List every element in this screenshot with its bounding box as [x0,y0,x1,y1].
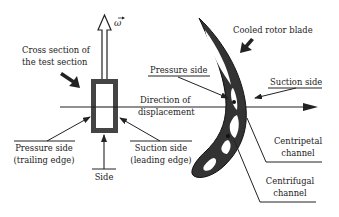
side-arrow [92,135,116,169]
pressure-side-blade-label: Pressure side [150,65,208,76]
centripetal-channel-label-line2: channel [268,148,328,159]
pressure-side-te-label-line2: (trailing edge) [12,155,76,166]
cooled-rotor-blade-label: Cooled rotor blade [233,25,313,36]
suction-side-le-label-line1: Suction side [128,143,194,154]
omega-label: ω [114,18,121,29]
suction-side-blade-leader [255,88,322,98]
direction-label-line1: Direction of [140,95,190,106]
centrifugal-channel-label-line1: Centrifugal [260,176,320,187]
direction-label-line2: displacement [138,107,195,118]
cross-section-pointer-icon [60,72,80,88]
turbine-blade-diagram: ω Cross section of the test section Pres… [0,0,339,217]
centripetal-channel-label-line1: Centripetal [268,136,328,147]
suction-side-le-leader [120,118,192,141]
suction-side-le-label-line2: (leading edge) [128,155,194,166]
cross-section-label-line2: the test section [22,57,87,68]
cross-section-label-line1: Cross section of [22,45,90,56]
rotor-blade-pointer-icon [240,38,254,53]
rotor-blade-shape [192,18,246,178]
pressure-side-te-leader [14,117,90,141]
pressure-side-te-label-line1: Pressure side [12,143,76,154]
suction-side-blade-label: Suction side [270,77,322,88]
side-label: Side [90,172,118,183]
test-section-rectangle [91,79,118,133]
centrifugal-channel-label-line2: channel [260,188,320,199]
